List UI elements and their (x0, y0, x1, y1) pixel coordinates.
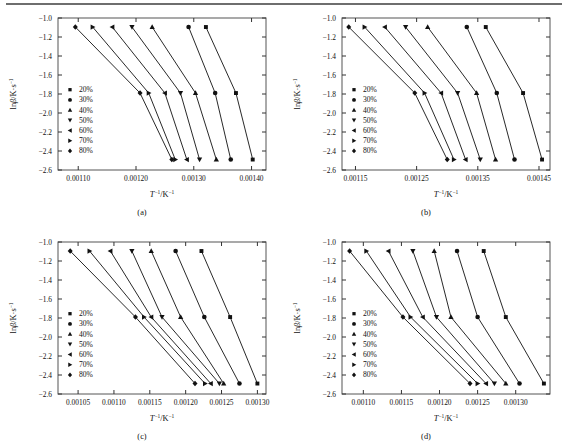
legend-label-70: 70% (79, 360, 94, 369)
legend-label-30: 30% (79, 319, 94, 328)
legend-label-80: 80% (79, 146, 94, 155)
y-tick-label: −1.8 (39, 314, 53, 323)
y-axis-label: lnβ/K·s−1 (292, 78, 302, 109)
y-tick-label: −1.4 (323, 276, 337, 285)
x-tick-label: 0.00115 (344, 174, 368, 183)
panel-caption: (c) (137, 432, 147, 441)
svg-text:lnβ/K·s−1: lnβ/K·s−1 (8, 78, 18, 109)
legend-label-80: 80% (363, 370, 378, 379)
y-tick-label: −1.6 (39, 71, 53, 80)
legend-marker-30 (352, 98, 356, 102)
y-tick-label: −2.6 (39, 390, 53, 399)
data-point-30-0 (186, 25, 191, 30)
legend-label-20: 20% (79, 309, 94, 318)
legend-label-50: 50% (79, 116, 94, 125)
legend-marker-20 (352, 312, 355, 315)
data-point-20-0 (482, 249, 486, 253)
y-tick-label: −1.0 (39, 14, 53, 23)
legend-label-40: 40% (363, 330, 378, 339)
y-tick-label: −1.6 (323, 295, 337, 304)
y-tick-label: −1.0 (323, 14, 337, 23)
y-tick-label: −1.0 (39, 238, 53, 247)
y-tick-label: −1.2 (39, 33, 53, 42)
y-tick-label: −2.2 (39, 352, 53, 361)
data-point-20-2 (251, 158, 255, 162)
legend-label-70: 70% (363, 136, 378, 145)
chart-panel-b: −1.0−1.2−1.4−1.6−1.8−2.0−2.2−2.4−2.60.00… (284, 0, 568, 224)
data-point-20-0 (204, 25, 208, 29)
y-tick-label: −1.0 (323, 238, 337, 247)
svg-text:lnβ/K·s−1: lnβ/K·s−1 (292, 78, 302, 109)
x-tick-label: 0.00120 (174, 398, 198, 407)
x-tick-label: 0.00110 (102, 398, 126, 407)
data-point-20-2 (255, 382, 259, 386)
y-axis-label: lnβ/K·s−1 (292, 302, 302, 333)
data-point-30-1 (213, 91, 218, 96)
x-tick-label: 0.00110 (66, 174, 90, 183)
legend-label-40: 40% (79, 330, 94, 339)
legend-label-50: 50% (363, 340, 378, 349)
legend-label-80: 80% (79, 370, 94, 379)
data-point-30-0 (455, 249, 460, 254)
data-point-20-1 (228, 315, 232, 319)
x-tick-label: 0.00145 (527, 174, 551, 183)
legend-label-80: 80% (363, 146, 378, 155)
legend-label-50: 50% (79, 340, 94, 349)
x-tick-label: 0.00115 (390, 398, 414, 407)
legend-label-60: 60% (79, 350, 94, 359)
svg-text:lnβ/K·s−1: lnβ/K·s−1 (292, 302, 302, 333)
x-tick-label: 0.00130 (245, 398, 269, 407)
y-tick-label: −1.6 (323, 71, 337, 80)
x-tick-label: 0.00130 (182, 174, 206, 183)
legend-marker-30 (352, 322, 356, 326)
legend-marker-30 (68, 322, 72, 326)
y-tick-label: −2.0 (39, 333, 53, 342)
x-tick-label: 0.00105 (66, 398, 90, 407)
data-point-30-2 (517, 381, 522, 386)
panel-caption: (a) (137, 208, 147, 217)
data-point-30-0 (173, 249, 178, 254)
y-tick-label: −1.2 (323, 257, 337, 266)
legend-label-20: 20% (363, 309, 378, 318)
y-tick-label: −1.4 (39, 276, 53, 285)
y-axis-label: lnβ/K·s−1 (8, 302, 18, 333)
x-axis-label: T−1/K−1 (434, 189, 459, 199)
data-point-30-2 (228, 157, 233, 162)
y-axis-label: lnβ/K·s−1 (8, 78, 18, 109)
y-tick-label: −1.8 (39, 90, 53, 99)
svg-text:lnβ/K·s−1: lnβ/K·s−1 (8, 302, 18, 333)
legend-label-70: 70% (79, 136, 94, 145)
y-tick-label: −1.4 (323, 52, 337, 61)
x-tick-label: 0.00120 (124, 174, 148, 183)
x-tick-label: 0.00120 (428, 398, 452, 407)
legend-marker-20 (68, 312, 71, 315)
y-tick-label: −2.4 (323, 147, 337, 156)
legend-label-30: 30% (79, 95, 94, 104)
legend-label-50: 50% (363, 116, 378, 125)
figure-panel-grid: −1.0−1.2−1.4−1.6−1.8−2.0−2.2−2.4−2.60.00… (0, 0, 568, 448)
legend-marker-20 (68, 88, 71, 91)
chart-panel-d: −1.0−1.2−1.4−1.6−1.8−2.0−2.2−2.4−2.60.00… (284, 224, 568, 448)
y-tick-label: −2.6 (323, 166, 337, 175)
chart-panel-a: −1.0−1.2−1.4−1.6−1.8−2.0−2.2−2.4−2.60.00… (0, 0, 284, 224)
data-point-30-1 (475, 315, 480, 320)
legend-marker-30 (68, 98, 72, 102)
data-point-20-2 (542, 382, 546, 386)
y-tick-label: −2.2 (323, 128, 337, 137)
data-point-20-1 (504, 315, 508, 319)
panel-caption: (d) (421, 432, 431, 441)
data-point-30-2 (237, 381, 242, 386)
data-point-20-0 (199, 249, 203, 253)
data-point-30-1 (494, 91, 499, 96)
panel-caption: (b) (421, 208, 431, 217)
y-tick-label: −2.6 (39, 166, 53, 175)
x-tick-label: 0.00130 (504, 398, 528, 407)
x-axis-label: T−1/K−1 (434, 413, 459, 423)
legend-label-70: 70% (363, 360, 378, 369)
y-tick-label: −1.4 (39, 52, 53, 61)
x-axis-label: T−1/K−1 (150, 189, 175, 199)
y-tick-label: −2.6 (323, 390, 337, 399)
legend-label-40: 40% (79, 106, 94, 115)
y-tick-label: −2.4 (39, 371, 53, 380)
data-point-30-2 (512, 157, 517, 162)
